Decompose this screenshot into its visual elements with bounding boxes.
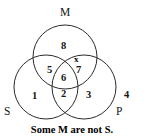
set-label-S: S <box>4 106 10 118</box>
set-label-M: M <box>60 7 70 19</box>
region-number-4: 4 <box>124 90 129 101</box>
venn-diagram-figure: M S P 1 2 3 4 5 6 7 8 x Some M are not S… <box>0 0 144 140</box>
region-number-5: 5 <box>47 65 52 76</box>
venn-circles <box>0 0 144 140</box>
region-number-2: 2 <box>61 89 66 100</box>
region-number-8: 8 <box>61 41 66 52</box>
figure-caption: Some M are not S. <box>0 124 144 136</box>
region-number-7: 7 <box>76 65 81 76</box>
circle-P <box>52 55 116 119</box>
region-number-6: 6 <box>61 73 66 84</box>
set-label-P: P <box>116 106 122 118</box>
region-number-3: 3 <box>86 90 91 101</box>
region-number-1: 1 <box>32 91 37 102</box>
x-mark-icon: x <box>74 55 79 64</box>
circle-S <box>14 55 78 119</box>
